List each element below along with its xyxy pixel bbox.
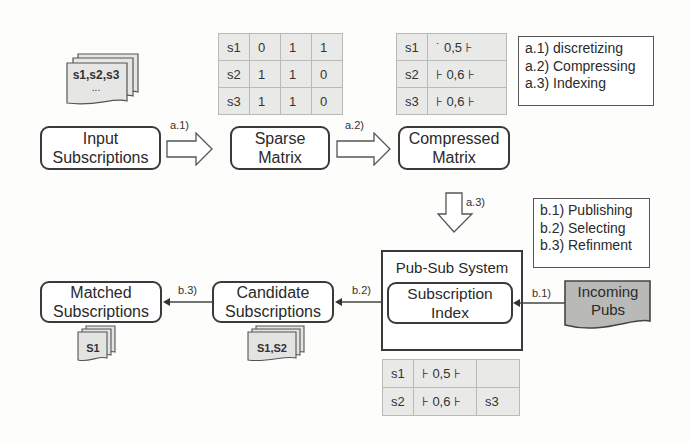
matrix-cell: 0 xyxy=(312,88,343,115)
matrix-cell: s3 xyxy=(397,88,428,115)
arrow-left-line-icon xyxy=(512,298,566,308)
input-subscriptions-box: Input Subscriptions xyxy=(40,126,161,170)
box-label: Subscription Index xyxy=(407,284,492,322)
compressed-matrix-table: s1 ˙ 0,5 ⊦ s2 ⊦ 0,6 ⊦ s3 ⊦ 0,6 ⊦ xyxy=(396,33,507,115)
matrix-cell: ⊦ 0,5 ⊦ xyxy=(414,360,477,388)
legend-a: a.1) discretizing a.2) Compressing a.3) … xyxy=(518,36,654,106)
table-row: s2 1 1 0 xyxy=(219,61,343,88)
table-row: s1 0 1 1 xyxy=(219,34,343,61)
arrow-b3-label: b.3) xyxy=(178,284,197,296)
table-row: s3 1 1 0 xyxy=(219,88,343,115)
matched-subscriptions-box: Matched Subscriptions xyxy=(40,281,162,323)
box-label: Input Subscriptions xyxy=(52,129,148,167)
arrow-left-line-icon xyxy=(334,297,384,307)
matrix-cell: s1 xyxy=(397,34,428,61)
table-row: s2 ⊦ 0,6 ⊦ xyxy=(397,61,507,88)
matrix-cell: s3 xyxy=(219,88,250,115)
matrix-cell: 0 xyxy=(312,61,343,88)
subscription-index-box: Subscription Index xyxy=(387,282,513,324)
incoming-pubs-label: Incoming Pubs xyxy=(563,283,653,319)
matrix-cell: s1 xyxy=(383,360,414,388)
arrow-a2-label: a.2) xyxy=(345,119,364,131)
box-label: Candidate Subscriptions xyxy=(225,283,321,321)
sparse-matrix-box: Sparse Matrix xyxy=(230,126,330,170)
matrix-cell: 1 xyxy=(250,61,281,88)
arrow-right-icon xyxy=(336,132,392,166)
candidate-docs-label: S1,S2 xyxy=(248,342,296,354)
input-docs-ellipsis: ... xyxy=(66,82,126,93)
candidate-subscriptions-box: Candidate Subscriptions xyxy=(212,281,334,323)
arrow-a3-label: a.3) xyxy=(466,196,485,208)
background-ghost-text xyxy=(300,0,305,22)
matrix-cell: 1 xyxy=(281,34,312,61)
table-row: s1 ⊦ 0,5 ⊦ xyxy=(383,360,520,388)
matrix-cell: 1 xyxy=(281,61,312,88)
sparse-matrix-table: s1 0 1 1 s2 1 1 0 s3 1 1 0 xyxy=(218,33,343,115)
arrow-a1-label: a.1) xyxy=(170,119,189,131)
input-docs-label: s1,s2,s3 xyxy=(66,68,126,82)
matched-docs-label: S1 xyxy=(78,342,108,354)
legend-item: a.3) Indexing xyxy=(525,75,647,93)
matrix-cell: s3 xyxy=(477,388,520,416)
arrow-b2-label: b.2) xyxy=(352,284,371,296)
compressed-matrix-box: Compressed Matrix xyxy=(398,126,510,170)
box-label: Compressed Matrix xyxy=(409,129,500,167)
box-label: Sparse Matrix xyxy=(255,129,306,167)
table-row: s1 ˙ 0,5 ⊦ xyxy=(397,34,507,61)
legend-b: b.1) Publishing b.2) Selecting b.3) Refi… xyxy=(533,198,650,268)
index-matrix-table: s1 ⊦ 0,5 ⊦ s2 ⊦ 0,6 ⊦ s3 xyxy=(382,359,520,416)
matrix-cell: ˙ 0,5 ⊦ xyxy=(428,34,507,61)
matrix-cell: 1 xyxy=(281,88,312,115)
matrix-cell: s2 xyxy=(219,61,250,88)
arrow-right-icon xyxy=(166,132,214,166)
matrix-cell: s1 xyxy=(219,34,250,61)
matrix-cell: ⊦ 0,6 ⊦ xyxy=(414,388,477,416)
legend-item: b.3) Refinment xyxy=(540,237,643,255)
matrix-cell: 1 xyxy=(312,34,343,61)
pubsub-title: Pub-Sub System xyxy=(383,259,521,276)
table-row: s3 ⊦ 0,6 ⊦ xyxy=(397,88,507,115)
matrix-cell: s2 xyxy=(383,388,414,416)
arrow-b1-label: b.1) xyxy=(532,287,551,299)
matrix-cell: 0 xyxy=(250,34,281,61)
matrix-cell xyxy=(477,360,520,388)
legend-item: a.2) Compressing xyxy=(525,58,647,76)
arrow-left-line-icon xyxy=(162,297,214,307)
matrix-cell: ⊦ 0,6 ⊦ xyxy=(428,88,507,115)
matrix-cell: 1 xyxy=(250,88,281,115)
legend-item: b.2) Selecting xyxy=(540,220,643,238)
table-row: s2 ⊦ 0,6 ⊦ s3 xyxy=(383,388,520,416)
box-label: Matched Subscriptions xyxy=(53,283,149,321)
legend-item: a.1) discretizing xyxy=(525,40,647,58)
legend-item: b.1) Publishing xyxy=(540,202,643,220)
matrix-cell: s2 xyxy=(397,61,428,88)
matrix-cell: ⊦ 0,6 ⊦ xyxy=(428,61,507,88)
